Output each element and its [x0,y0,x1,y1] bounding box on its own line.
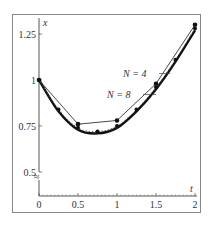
axes: ≈00.511.520.50.7511.25 [19,18,198,210]
series-n-8-point [135,107,139,111]
x-tick-label: 2 [193,199,198,210]
chart-figure: ≈00.511.520.50.7511.25 N = 4N = 8 t x [0,0,212,226]
y-tick-label: 0.75 [19,121,37,132]
x-tick-label: 1.5 [150,199,163,210]
exact-solution-curve [39,30,195,133]
x-axis-label: t [190,183,193,194]
series-n-4-point [76,122,81,127]
label-n4: N = 4 [122,68,146,79]
series-layer [37,23,198,134]
series-n-4-point [115,118,120,123]
x-tick-label: 0.5 [72,199,85,210]
chart-frame [13,15,201,213]
x-tick-label: 1 [115,199,120,210]
series-n-8-point [96,130,100,134]
series-n-8-point [193,26,197,30]
y-tick-label: 1 [31,75,36,86]
series-n-4-point [193,23,198,28]
y-tick-label: 0.5 [24,167,37,178]
y-axis-label: x [42,17,48,28]
x-tick-label: 0 [37,199,42,210]
label-n8: N = 8 [106,89,130,100]
series-n-8-point [115,124,119,128]
y-tick-label: 1.25 [19,29,37,40]
series-n-8-point [154,85,158,89]
series-n-4-line [39,25,195,124]
series-n-8-point [57,107,61,111]
series-n-8-point [76,126,80,130]
series-n-8-point [37,78,41,82]
series-n-8-point [174,58,178,62]
